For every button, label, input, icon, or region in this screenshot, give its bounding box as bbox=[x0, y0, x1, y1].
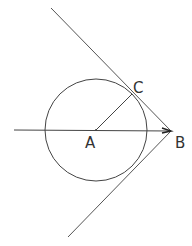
label-b: B bbox=[175, 134, 185, 152]
geometry-diagram: A B C bbox=[0, 0, 192, 246]
point-a bbox=[95, 129, 97, 131]
radius-ac bbox=[96, 94, 132, 130]
label-a: A bbox=[85, 134, 96, 152]
label-c: C bbox=[133, 79, 143, 97]
lower-tangent-line bbox=[68, 131, 171, 237]
upper-tangent-line bbox=[51, 8, 171, 131]
